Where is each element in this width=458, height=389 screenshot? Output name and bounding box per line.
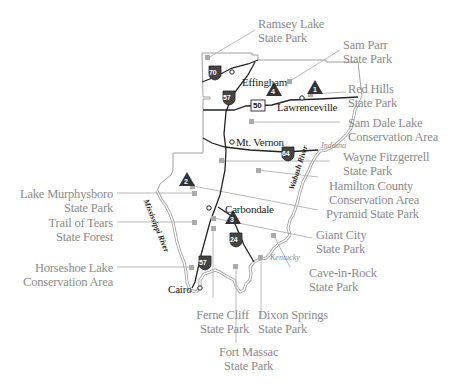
label-pyramid: Pyramid State Park [326, 207, 419, 221]
i64-number: 64 [282, 148, 289, 160]
label-dixon-springs: Dixon SpringsState Park [258, 308, 328, 336]
label-fort-massac: Fort MassacState Park [219, 345, 278, 373]
label-cave-in-rock: Cave-in-RockState Park [309, 266, 377, 294]
label-ferne-cliff: Ferne CliffState Park [177, 308, 249, 336]
campsite-1-number: 1 [313, 84, 317, 96]
label-trail-of-tears: Trail of TearsState Forest [49, 216, 113, 244]
label-red-hills: Red HillsState Park [348, 82, 397, 110]
i24-number: 24 [230, 234, 237, 246]
label-horseshoe-lake: Horseshoe LakeConservation Area [23, 261, 113, 289]
city-effingham: Effingham [242, 76, 287, 88]
leader-lines [117, 30, 346, 343]
label-wayne-fitzgerrell: Wayne FitzgerrellState Park [343, 150, 429, 178]
label-sam-dale-lake: Sam Dale LakeConservation Area [348, 116, 438, 144]
campsite-2-number: 2 [184, 176, 188, 188]
i57-south-number: 57 [199, 257, 206, 269]
i70-number: 70 [209, 67, 216, 79]
city-mt-vernon: Mt. Vernon [236, 136, 284, 148]
i57-north-number: 57 [223, 92, 230, 104]
label-hamilton-county: Hamilton CountyConservation Area [329, 179, 419, 207]
region-indiana: Indiana [321, 141, 346, 150]
label-giant-city: Giant CityState Park [316, 228, 366, 256]
campsite-3-number: 3 [230, 214, 234, 226]
city-cairo: Cairo [168, 283, 191, 295]
state-parks-map: 70 57 64 24 57 50 4 1 2 3 Effingham Lawr… [0, 0, 458, 389]
region-kentucky: Kentucky [270, 253, 300, 262]
label-ramsey-lake: Ramsey LakeState Park [258, 17, 324, 45]
us50-number: 50 [253, 100, 262, 112]
label-lake-murphysboro: Lake MurphysboroState Park [20, 187, 113, 215]
city-lawrenceville: Lawrenceville [277, 101, 337, 113]
city-carbondale: Carbondale [225, 203, 274, 215]
label-sam-parr: Sam ParrState Park [343, 38, 392, 66]
